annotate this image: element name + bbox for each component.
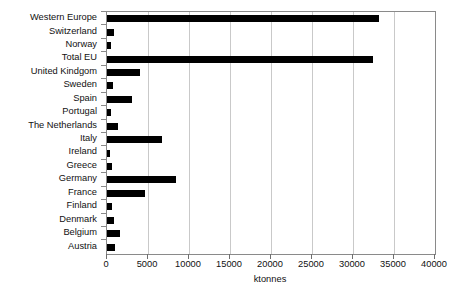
category-axis: Western EuropeSwitzerlandNorwayTotal EUU… — [0, 11, 102, 253]
bar-slot — [107, 200, 435, 213]
bar-slot — [107, 173, 435, 186]
bar — [107, 244, 115, 251]
category-label: Austria — [0, 239, 102, 252]
bar — [107, 123, 118, 130]
bar-slot — [107, 214, 435, 227]
x-tick-label: 0 — [103, 260, 108, 269]
bar — [107, 109, 111, 116]
bar — [107, 163, 112, 170]
bar — [107, 230, 120, 237]
bars-layer — [107, 12, 435, 254]
category-label: France — [0, 186, 102, 199]
x-tick-label: 40000 — [421, 260, 447, 269]
category-label: United Kindgom — [0, 65, 102, 78]
bar-slot — [107, 39, 435, 52]
bar-slot — [107, 120, 435, 133]
bar — [107, 176, 176, 183]
category-label: Sweden — [0, 78, 102, 91]
x-axis-title: ktonnes — [106, 275, 434, 284]
bar-slot — [107, 12, 435, 25]
bar-slot — [107, 93, 435, 106]
bar — [107, 82, 113, 89]
bar — [107, 29, 114, 36]
plot-area — [106, 11, 436, 255]
bar — [107, 217, 114, 224]
category-label: Finland — [0, 199, 102, 212]
x-tick-label: 5000 — [137, 260, 158, 269]
bar-slot — [107, 133, 435, 146]
bar-slot — [107, 240, 435, 253]
category-label: Ireland — [0, 145, 102, 158]
bar-slot — [107, 25, 435, 38]
category-label: Denmark — [0, 213, 102, 226]
bar-slot — [107, 52, 435, 65]
bar-slot — [107, 187, 435, 200]
bar — [107, 69, 140, 76]
x-tick-label: 20000 — [257, 260, 283, 269]
bar — [107, 96, 132, 103]
x-tick-label: 15000 — [216, 260, 242, 269]
bar-slot — [107, 146, 435, 159]
bar — [107, 56, 373, 63]
category-label: Western Europe — [0, 11, 102, 24]
x-tick-label: 10000 — [175, 260, 201, 269]
bar — [107, 42, 111, 49]
bar — [107, 15, 379, 22]
category-label: Switzerland — [0, 24, 102, 37]
bar-slot — [107, 66, 435, 79]
category-label: The Netherlands — [0, 119, 102, 132]
x-tick-label: 25000 — [298, 260, 324, 269]
bar — [107, 190, 145, 197]
x-tick-label: 30000 — [339, 260, 365, 269]
category-label: Portugal — [0, 105, 102, 118]
category-label: Spain — [0, 92, 102, 105]
bar — [107, 150, 110, 157]
bar-slot — [107, 79, 435, 92]
category-label: Belgium — [0, 226, 102, 239]
x-tick-label: 35000 — [380, 260, 406, 269]
bar — [107, 203, 112, 210]
bar-slot — [107, 160, 435, 173]
bar — [107, 136, 162, 143]
category-label: Total EU — [0, 51, 102, 64]
category-label: Greece — [0, 159, 102, 172]
category-label: Norway — [0, 38, 102, 51]
bar-slot — [107, 227, 435, 240]
category-label: Germany — [0, 172, 102, 185]
bar-chart-figure: Western EuropeSwitzerlandNorwayTotal EUU… — [0, 0, 460, 298]
bar-slot — [107, 106, 435, 119]
category-label: Italy — [0, 132, 102, 145]
x-axis: 0500010000150002000025000300003500040000 — [106, 254, 434, 276]
